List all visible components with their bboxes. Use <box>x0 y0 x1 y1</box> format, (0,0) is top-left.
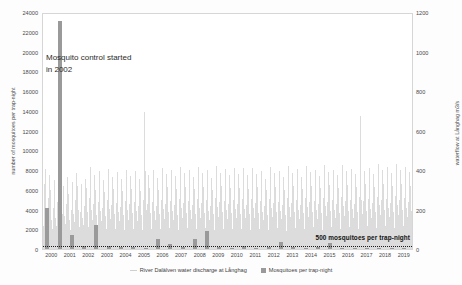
chart-figure: number of mosquitoes per trap-night wate… <box>0 0 462 285</box>
y-tick-left: 16000 <box>22 89 38 95</box>
x-tick-year: 2005 <box>135 252 154 262</box>
y-tick-left: 24000 <box>22 10 38 16</box>
mosquito-bar <box>254 248 258 249</box>
square-marker-icon <box>261 268 266 273</box>
annotation-mosquito-control: Mosquito control started in 2002 <box>46 52 131 75</box>
legend-label-mosquitoes: Mosquitoes per trap-night <box>269 267 332 273</box>
mosquito-bar <box>119 247 123 249</box>
legend-label-waterflow: River Dalälven water discharge at Långha… <box>140 267 247 273</box>
y-tick-left: 8000 <box>26 168 38 174</box>
x-tick-year: 2016 <box>339 252 358 262</box>
y-tick-right: 800 <box>416 89 425 95</box>
plot-area: 500 mosquitoes per trap-night <box>42 13 413 250</box>
mosquito-bar <box>217 247 221 249</box>
x-tick-year: 2002 <box>79 252 98 262</box>
y-axis-right-title: waterflow at Långhag m3/s <box>454 68 460 198</box>
x-tick-year: 2017 <box>357 252 376 262</box>
x-tick-year: 2009 <box>209 252 228 262</box>
y-tick-right: 600 <box>416 129 425 135</box>
y-tick-left: 6000 <box>26 188 38 194</box>
x-tick-year: 2000 <box>42 252 61 262</box>
x-tick-year: 2018 <box>376 252 395 262</box>
annotation-line-2: in 2002 <box>46 64 131 76</box>
x-axis-ticks: 2000200120022003200420052006200720082009… <box>42 252 413 262</box>
mosquito-bar <box>353 248 357 249</box>
y-tick-right: 1200 <box>416 10 428 16</box>
mosquito-bar <box>316 247 320 249</box>
x-tick-year: 2004 <box>116 252 135 262</box>
mosquito-bar <box>144 248 148 249</box>
x-tick-year: 2019 <box>394 252 413 262</box>
y-tick-left: 20000 <box>22 50 38 56</box>
y-tick-right: 200 <box>416 208 425 214</box>
y-tick-left: 2000 <box>26 227 38 233</box>
mosquito-bar <box>291 247 295 249</box>
y-tick-left: 0 <box>35 247 38 253</box>
y-tick-right: 1000 <box>416 50 428 56</box>
y-axis-right-ticks: 020040060080010001200 <box>416 13 446 250</box>
y-tick-right: 0 <box>416 247 419 253</box>
legend-item-mosquitoes: Mosquitoes per trap-night <box>261 267 332 273</box>
y-tick-right: 400 <box>416 168 425 174</box>
x-tick-year: 2012 <box>265 252 284 262</box>
y-tick-left: 22000 <box>22 30 38 36</box>
x-tick-year: 2014 <box>302 252 321 262</box>
mosquito-bar <box>340 248 344 249</box>
x-tick-year: 2008 <box>190 252 209 262</box>
y-tick-left: 12000 <box>22 129 38 135</box>
x-tick-year: 2011 <box>246 252 265 262</box>
x-tick-year: 2013 <box>283 252 302 262</box>
x-tick-year: 2010 <box>227 252 246 262</box>
y-tick-left: 10000 <box>22 148 38 154</box>
annotation-line-1: Mosquito control started <box>46 52 131 64</box>
y-tick-left: 4000 <box>26 208 38 214</box>
mosquito-series <box>43 14 412 249</box>
mosquito-bar <box>390 248 394 249</box>
threshold-label: 500 mosquitoes per trap-night <box>315 234 410 241</box>
x-tick-year: 2006 <box>153 252 172 262</box>
mosquito-bar <box>45 208 49 249</box>
mosquito-bar <box>193 239 197 249</box>
threshold-line <box>43 246 412 247</box>
mosquito-bar <box>402 248 406 249</box>
line-marker-icon <box>130 270 137 271</box>
mosquito-bar <box>304 248 308 249</box>
x-tick-year: 2015 <box>320 252 339 262</box>
mosquito-bar <box>365 248 369 249</box>
y-tick-left: 18000 <box>22 69 38 75</box>
chart-legend: River Dalälven water discharge at Långha… <box>0 267 462 273</box>
mosquito-bar <box>156 239 160 249</box>
x-tick-year: 2003 <box>98 252 117 262</box>
mosquito-bar <box>377 248 381 249</box>
x-tick-year: 2001 <box>61 252 80 262</box>
x-tick-year: 2007 <box>172 252 191 262</box>
legend-item-waterflow: River Dalälven water discharge at Långha… <box>130 267 247 273</box>
y-axis-left-ticks: 0200040006000800010000120001400016000180… <box>0 13 38 250</box>
y-tick-left: 14000 <box>22 109 38 115</box>
mosquito-bar <box>230 248 234 249</box>
